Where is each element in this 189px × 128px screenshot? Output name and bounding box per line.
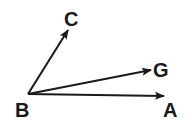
- ray-bg: [28, 70, 151, 94]
- label-g: G: [153, 59, 169, 81]
- label-b: B: [15, 99, 29, 121]
- ray-diagram: B C G A: [0, 0, 189, 128]
- label-c: C: [64, 8, 78, 30]
- ray-ba: [28, 94, 164, 96]
- ray-bc: [28, 30, 68, 94]
- label-a: A: [163, 99, 177, 121]
